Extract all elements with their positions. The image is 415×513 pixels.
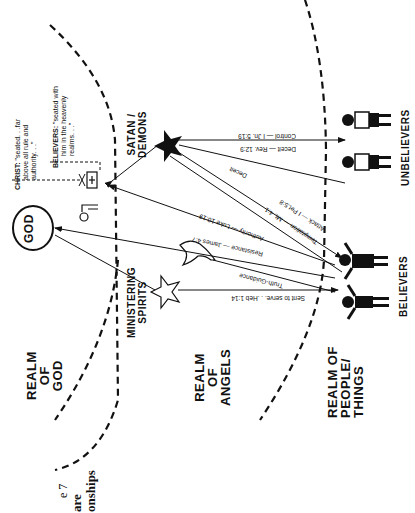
ministering-spirits-label: MINISTERING SPIRITS <box>126 267 148 338</box>
satan-demons-label: SATAN / DEMONS <box>126 111 148 158</box>
unbeliever-figure-icon <box>342 112 391 128</box>
god-label: GOD <box>24 214 35 243</box>
believers-quote-line: him in the heavenly <box>60 86 68 168</box>
spirit-star-icon <box>151 276 179 308</box>
arrow-label-control: Control — I Jn. 5:19 <box>238 133 296 140</box>
caption-line: onships <box>84 470 98 512</box>
realm-label-line: ANGELS <box>219 349 232 406</box>
unbeliever-figure-icon <box>342 154 391 170</box>
empty-throne-icon <box>80 205 98 221</box>
figure-caption: e 7 are onships <box>56 470 98 512</box>
realm-of-people-label: REALM OF PEOPLE/ THINGS <box>326 346 365 418</box>
caption-line: are <box>70 470 84 512</box>
believer-figure-icon <box>339 243 388 279</box>
christ-quote-line: above all rule and <box>22 119 30 190</box>
believers-quote-line: realms. . ." <box>68 86 76 168</box>
arrow-resistance <box>55 228 335 278</box>
believers-label: BELIEVERS: <box>52 126 59 168</box>
satan-label-line: DEMONS <box>137 111 148 158</box>
christ-quote-line: "seated. . .far <box>14 119 21 160</box>
diagram-lines <box>0 0 415 513</box>
believers-quote: BELIEVERS: "seated with him in the heave… <box>52 86 76 168</box>
christ-label: CHRIST: <box>14 162 21 190</box>
diagram-page: CHRIST: "seated. . .far above all rule a… <box>0 0 415 513</box>
spirits-label-line: MINISTERING <box>126 267 137 338</box>
realm-of-god-label: REALM OF GOD <box>25 351 64 400</box>
believers-quote-line: "seated with <box>52 86 59 124</box>
figure-number: e 7 <box>56 470 70 512</box>
realm-boundary-god-lower <box>55 260 118 420</box>
unbelievers-label: UNBELIEVERS <box>400 109 411 186</box>
arrow-label-deceit-rev: Deceit — Rev. 12:9 <box>240 146 296 153</box>
believer-figure-icon <box>342 285 389 319</box>
satan-label-line: SATAN / <box>126 111 137 158</box>
realm-label-line: GOD <box>51 351 64 400</box>
cross-throne-icon <box>79 172 97 188</box>
christ-quote-line: authority. . ." <box>30 119 38 190</box>
realm-of-angels-label: REALM OF ANGELS <box>193 349 232 406</box>
believers-label: BELIEVERS <box>398 256 409 317</box>
christ-quote: CHRIST: "seated. . .far above all rule a… <box>14 119 38 190</box>
satan-star-icon <box>154 130 182 162</box>
arrow-label-sent: Sent to serve. . .Heb 1:14 <box>231 295 305 302</box>
realm-label-line: THINGS <box>352 346 365 418</box>
spirits-label-line: SPIRITS <box>137 267 148 338</box>
